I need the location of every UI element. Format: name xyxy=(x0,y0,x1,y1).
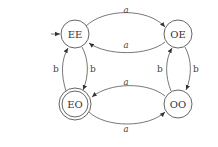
state-oe: OE xyxy=(164,20,192,48)
edge-eo-to-ee xyxy=(62,48,68,91)
edge-oo-to-eo xyxy=(92,86,165,97)
edge-label-ee-oe: a xyxy=(123,5,128,15)
edge-label-eo-oo: a xyxy=(123,124,128,134)
edge-label-oe-oo: b xyxy=(193,64,199,74)
edge-label-oo-eo: a xyxy=(123,77,128,87)
edge-label-ee-eo: b xyxy=(90,64,96,74)
edge-label-eo-ee: b xyxy=(53,64,59,74)
edge-oo-to-oe xyxy=(167,48,172,91)
svg-text:OE: OE xyxy=(170,29,186,40)
edge-eo-to-oo xyxy=(89,112,165,124)
svg-text:OO: OO xyxy=(170,99,186,110)
edge-ee-to-eo xyxy=(82,47,87,90)
edge-oe-to-oo xyxy=(185,47,190,90)
edge-label-oo-oe: b xyxy=(157,64,163,74)
state-oo: OO xyxy=(164,90,192,118)
state-eo-accepting: EO xyxy=(59,88,91,120)
svg-text:EE: EE xyxy=(68,29,83,40)
svg-text:EO: EO xyxy=(67,99,83,110)
state-diagram: a a a a b b b b EE OE EO OO xyxy=(0,0,218,147)
state-ee: EE xyxy=(61,20,89,48)
edge-label-oe-ee: a xyxy=(123,40,128,50)
